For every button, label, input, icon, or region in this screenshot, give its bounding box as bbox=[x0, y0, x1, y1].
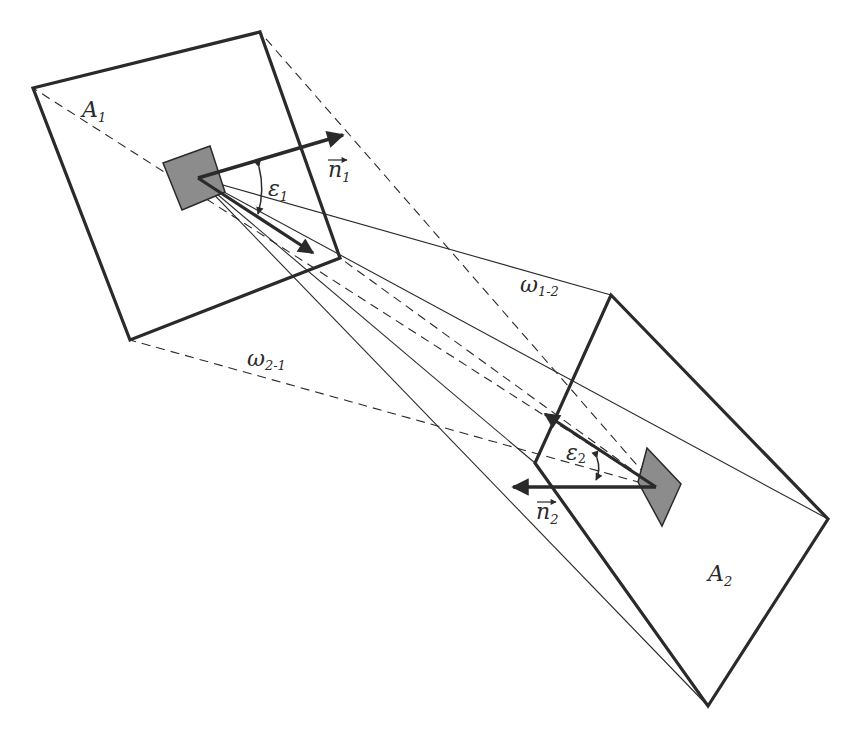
solid-angle-2-1-lines bbox=[33, 32, 656, 487]
solid-angle-1-2-lines bbox=[198, 178, 828, 706]
ray-1-to-2-arrow bbox=[198, 178, 313, 253]
label-eps1: ε1 bbox=[268, 176, 288, 204]
surface-a2 bbox=[535, 295, 828, 706]
label-a2: A2 bbox=[706, 561, 732, 589]
label-omega-2-1: ω2-1 bbox=[247, 346, 286, 373]
label-a1: A1 bbox=[80, 97, 106, 125]
normal-n1-arrow bbox=[198, 135, 343, 178]
label-omega-1-2: ω1-2 bbox=[520, 272, 559, 299]
svg-text:n1: n1 bbox=[328, 157, 350, 185]
angle-eps2-arc bbox=[596, 458, 599, 480]
angle-eps1-arc bbox=[258, 167, 262, 214]
element-da1 bbox=[163, 146, 225, 210]
label-n1: n1 bbox=[328, 157, 350, 185]
svg-text:n2: n2 bbox=[536, 499, 558, 527]
view-factor-diagram: A1 A2 n1 n2 ε1 ε2 ω1-2 ω2-1 bbox=[0, 0, 864, 740]
ray-2-to-1-arrow bbox=[545, 414, 656, 487]
label-eps2: ε2 bbox=[566, 440, 586, 466]
label-n2: n2 bbox=[536, 499, 558, 527]
